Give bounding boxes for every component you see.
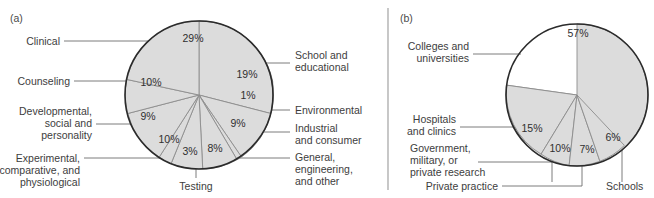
label-hospitals-1: Hospitals bbox=[413, 113, 456, 125]
pct-a-10l: 10% bbox=[140, 76, 161, 88]
label-schools: Schools bbox=[606, 180, 643, 192]
label-industrial-2: and consumer bbox=[295, 134, 362, 146]
label-school-2: educational bbox=[295, 61, 349, 73]
two-pie-chart-figure: (a) 29% 19% bbox=[0, 0, 654, 198]
pct-a-10b: 10% bbox=[158, 133, 179, 145]
label-government-2: military, or bbox=[410, 154, 458, 166]
pie-b-wedges bbox=[506, 24, 648, 166]
label-general-1: General, bbox=[295, 151, 335, 163]
pct-b-15: 15% bbox=[521, 122, 542, 134]
pct-a-29: 29% bbox=[182, 32, 203, 44]
label-testing: Testing bbox=[179, 180, 212, 192]
label-industrial-1: Industrial bbox=[295, 122, 338, 134]
pct-a-1: 1% bbox=[240, 89, 255, 101]
label-experimental-3: physiological bbox=[20, 176, 80, 188]
label-experimental-1: Experimental, bbox=[16, 152, 80, 164]
pct-a-8: 8% bbox=[207, 142, 222, 154]
label-general-2: engineering, bbox=[295, 163, 353, 175]
label-environmental: Environmental bbox=[295, 104, 362, 116]
label-colleges-1: Colleges and bbox=[408, 40, 469, 52]
label-school-1: School and bbox=[295, 49, 348, 61]
pct-b-7: 7% bbox=[579, 143, 594, 155]
label-developmental-2: social and bbox=[45, 117, 92, 129]
label-general-3: and other bbox=[295, 175, 340, 187]
label-government-1: Government, bbox=[410, 142, 471, 154]
pct-b-10: 10% bbox=[549, 142, 570, 154]
label-colleges-2: universities bbox=[416, 52, 469, 64]
pct-b-6: 6% bbox=[605, 131, 620, 143]
label-developmental-3: personality bbox=[41, 129, 93, 141]
label-developmental-1: Developmental, bbox=[19, 105, 92, 117]
pct-a-3: 3% bbox=[182, 145, 197, 157]
pct-a-9l: 9% bbox=[140, 110, 155, 122]
pct-a-19: 19% bbox=[236, 68, 257, 80]
label-private-practice: Private practice bbox=[426, 180, 499, 192]
panel-a-tag: (a) bbox=[10, 12, 23, 24]
label-counseling: Counseling bbox=[17, 75, 70, 87]
label-clinical: Clinical bbox=[26, 35, 60, 47]
leader-private-practice bbox=[502, 166, 582, 186]
pct-b-57: 57% bbox=[567, 27, 588, 39]
label-government-3: private research bbox=[410, 166, 485, 178]
label-hospitals-2: and clinics bbox=[407, 125, 456, 137]
panel-b-tag: (b) bbox=[400, 12, 413, 24]
pct-a-9r: 9% bbox=[230, 117, 245, 129]
label-experimental-2: comparative, and bbox=[0, 164, 80, 176]
